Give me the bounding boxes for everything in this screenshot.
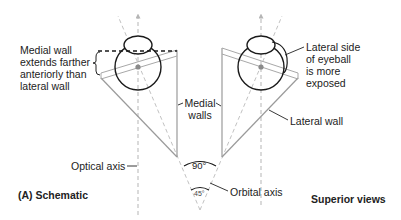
medial-walls-label: Medial walls <box>183 97 217 121</box>
panel-label: (A) Schematic <box>18 189 88 201</box>
left-brace <box>93 52 100 75</box>
medial-wall-note: Medial wall extends farther anteriorly t… <box>20 44 90 92</box>
right-optic-center <box>258 64 263 69</box>
angle-90-label: 90° <box>192 160 206 172</box>
left-optic-center <box>135 64 140 69</box>
leader-orbital-axis <box>210 183 228 191</box>
orbital-axis-label: Orbital axis <box>230 186 283 198</box>
optical-axis-label: Optical axis <box>71 160 125 172</box>
leader-lateral-side <box>285 47 304 55</box>
lateral-side-note: Lateral side of eyeball is more exposed <box>306 41 360 89</box>
orbit-schematic-figure: Medial wall extends farther anteriorly t… <box>0 0 401 220</box>
view-label: Superior views <box>311 193 386 205</box>
leader-lateral-wall <box>269 110 288 120</box>
right-cornea <box>247 36 275 54</box>
angle-45-label: 45° <box>194 188 205 200</box>
lateral-wall-label: Lateral wall <box>290 115 343 127</box>
